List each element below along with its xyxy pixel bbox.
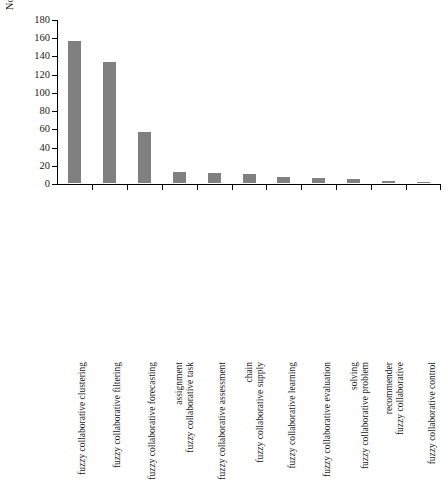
x-axis-label: fuzzy collaborative forecasting: [147, 362, 158, 480]
y-tick-mark: [52, 20, 57, 21]
x-axis-label: fuzzy collaborative evaluation: [322, 362, 333, 477]
bar: [382, 181, 395, 183]
bar: [277, 177, 290, 183]
y-tick-mark: [52, 129, 57, 130]
x-axis-label-line: fuzzy collaborative problem: [360, 362, 371, 469]
y-tick-label: 80: [40, 103, 51, 119]
y-tick-label: 0: [45, 176, 50, 192]
x-axis-label-line: fuzzy collaborative assessment: [217, 362, 228, 480]
y-tick-label: 40: [40, 140, 51, 156]
x-axis-label: fuzzy collaborative learning: [287, 362, 298, 469]
x-axis-label-line: fuzzy collaborative learning: [287, 362, 298, 469]
x-axis-label-line: chain: [244, 362, 255, 383]
bar: [312, 178, 325, 183]
x-axis-label: fuzzy collaborative assessment: [217, 362, 228, 480]
x-axis-label-line: fuzzy collaborative forecasting: [147, 362, 158, 480]
y-tick-mark: [52, 38, 57, 39]
y-tick-mark: [52, 111, 57, 112]
x-axis-label-line: fuzzy collaborative: [395, 362, 406, 435]
y-tick-label: 180: [34, 12, 50, 28]
bar: [68, 41, 81, 183]
y-tick-label: 100: [34, 85, 50, 101]
x-axis-label-line: fuzzy collaborative task: [185, 362, 196, 453]
y-tick-label: 160: [34, 30, 50, 46]
bar: [208, 173, 221, 183]
y-tick-mark: [52, 184, 57, 185]
y-tick-label: 20: [40, 158, 51, 174]
y-tick-mark: [52, 148, 57, 149]
x-axis-label-line: fuzzy collaborative evaluation: [322, 362, 333, 477]
y-tick-mark: [52, 93, 57, 94]
x-axis-label-line: fuzzy collaborative supply: [255, 362, 266, 463]
x-axis-labels: fuzzy collaborative clusteringfuzzy coll…: [57, 186, 441, 370]
y-tick-label: 120: [34, 67, 50, 83]
bar: [243, 174, 256, 183]
bar: [138, 132, 151, 183]
bar: [103, 62, 116, 183]
x-axis-label-line: solving: [349, 362, 360, 390]
x-axis-label: fuzzy collaborative control: [427, 362, 438, 464]
x-axis-label: fuzzy collaborative filtering: [112, 362, 123, 468]
plot-area: 020406080100120140160180: [57, 20, 441, 184]
x-axis-label: fuzzy collaborative problemsolving: [349, 362, 371, 469]
x-axis-label: fuzzy collaborative supplychain: [244, 362, 266, 463]
x-axis-label-line: fuzzy collaborative filtering: [112, 362, 123, 468]
x-axis-label: fuzzy collaborative taskassignment: [174, 362, 196, 453]
x-axis-label: fuzzy collaborativerecommender: [384, 362, 406, 435]
y-tick-mark: [52, 75, 57, 76]
x-axis-line: [57, 184, 441, 185]
bar: [347, 179, 360, 183]
x-axis-label-line: assignment: [174, 362, 185, 405]
y-tick-mark: [52, 166, 57, 167]
x-axis-label-line: recommender: [384, 362, 395, 414]
y-tick-label: 60: [40, 121, 51, 137]
y-axis-title: No. of references: [2, 0, 18, 38]
y-axis-line: [57, 20, 58, 185]
bar: [173, 172, 186, 183]
bar: [417, 182, 430, 183]
x-axis-label: fuzzy collaborative clustering: [77, 362, 88, 475]
x-axis-label-line: fuzzy collaborative control: [427, 362, 438, 464]
y-tick-label: 140: [34, 48, 50, 64]
x-axis-label-line: fuzzy collaborative clustering: [77, 362, 88, 475]
y-tick-mark: [52, 56, 57, 57]
